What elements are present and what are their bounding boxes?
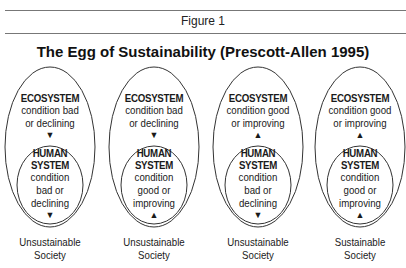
human-trend: improving bbox=[108, 197, 200, 210]
human-condition: condition bbox=[108, 171, 200, 184]
down-arrow-icon: ▼ bbox=[0, 210, 102, 221]
down-arrow-icon: ▼ bbox=[102, 130, 206, 141]
ecosystem-condition: condition good bbox=[314, 104, 406, 117]
caption-line-2: Society bbox=[212, 249, 304, 262]
ecosystem-trend: or improving bbox=[314, 117, 406, 130]
ecosystem-heading: ECOSYSTEM bbox=[108, 92, 200, 104]
egg-3: ECOSYSTEM condition good or improving ▲ … bbox=[206, 92, 310, 221]
ecosystem-heading: ECOSYSTEM bbox=[4, 92, 96, 104]
caption-line-2: Society bbox=[314, 249, 406, 262]
caption-line-1: Unsustainable bbox=[4, 236, 96, 249]
human-heading-2: SYSTEM bbox=[4, 159, 96, 171]
egg-4: ECOSYSTEM condition good or improving ▲ … bbox=[308, 92, 406, 221]
human-heading: HUMAN bbox=[108, 147, 200, 159]
ecosystem-condition: condition bad bbox=[4, 104, 96, 117]
ecosystem-condition: condition good bbox=[212, 104, 304, 117]
human-heading: HUMAN bbox=[212, 147, 304, 159]
ecosystem-condition: condition bad bbox=[108, 104, 200, 117]
up-arrow-icon: ▲ bbox=[206, 130, 310, 141]
ecosystem-trend: or declining bbox=[4, 117, 96, 130]
human-heading: HUMAN bbox=[314, 147, 406, 159]
egg-2-caption: Unsustainable Society bbox=[108, 236, 200, 262]
human-state: good or bbox=[108, 184, 200, 197]
caption-line-1: Unsustainable bbox=[212, 236, 304, 249]
human-heading-2: SYSTEM bbox=[314, 159, 406, 171]
egg-2: ECOSYSTEM condition bad or declining ▼ H… bbox=[102, 92, 206, 221]
up-arrow-icon: ▲ bbox=[308, 130, 406, 141]
caption-line-1: Unsustainable bbox=[108, 236, 200, 249]
human-state: bad or bbox=[212, 184, 304, 197]
ecosystem-trend: or improving bbox=[212, 117, 304, 130]
down-arrow-icon: ▼ bbox=[0, 130, 102, 141]
caption-line-2: Society bbox=[108, 249, 200, 262]
human-state: bad or bbox=[4, 184, 96, 197]
caption-line-2: Society bbox=[4, 249, 96, 262]
human-condition: condition bbox=[314, 171, 406, 184]
egg-1: ECOSYSTEM condition bad or declining ▼ H… bbox=[0, 92, 102, 221]
human-heading: HUMAN bbox=[4, 147, 96, 159]
ecosystem-heading: ECOSYSTEM bbox=[212, 92, 304, 104]
human-condition: condition bbox=[4, 171, 96, 184]
ecosystem-heading: ECOSYSTEM bbox=[314, 92, 406, 104]
human-trend: declining bbox=[4, 197, 96, 210]
human-trend: improving bbox=[314, 197, 406, 210]
human-condition: condition bbox=[212, 171, 304, 184]
egg-4-caption: Sustainable Society bbox=[314, 236, 406, 262]
caption-line-1: Sustainable bbox=[314, 236, 406, 249]
up-arrow-icon: ▲ bbox=[102, 210, 206, 221]
egg-1-caption: Unsustainable Society bbox=[4, 236, 96, 262]
up-arrow-icon: ▲ bbox=[308, 210, 406, 221]
human-trend: declining bbox=[212, 197, 304, 210]
human-heading-2: SYSTEM bbox=[108, 159, 200, 171]
down-arrow-icon: ▼ bbox=[206, 210, 310, 221]
ecosystem-trend: or declining bbox=[108, 117, 200, 130]
egg-3-caption: Unsustainable Society bbox=[212, 236, 304, 262]
human-heading-2: SYSTEM bbox=[212, 159, 304, 171]
human-state: good or bbox=[314, 184, 406, 197]
